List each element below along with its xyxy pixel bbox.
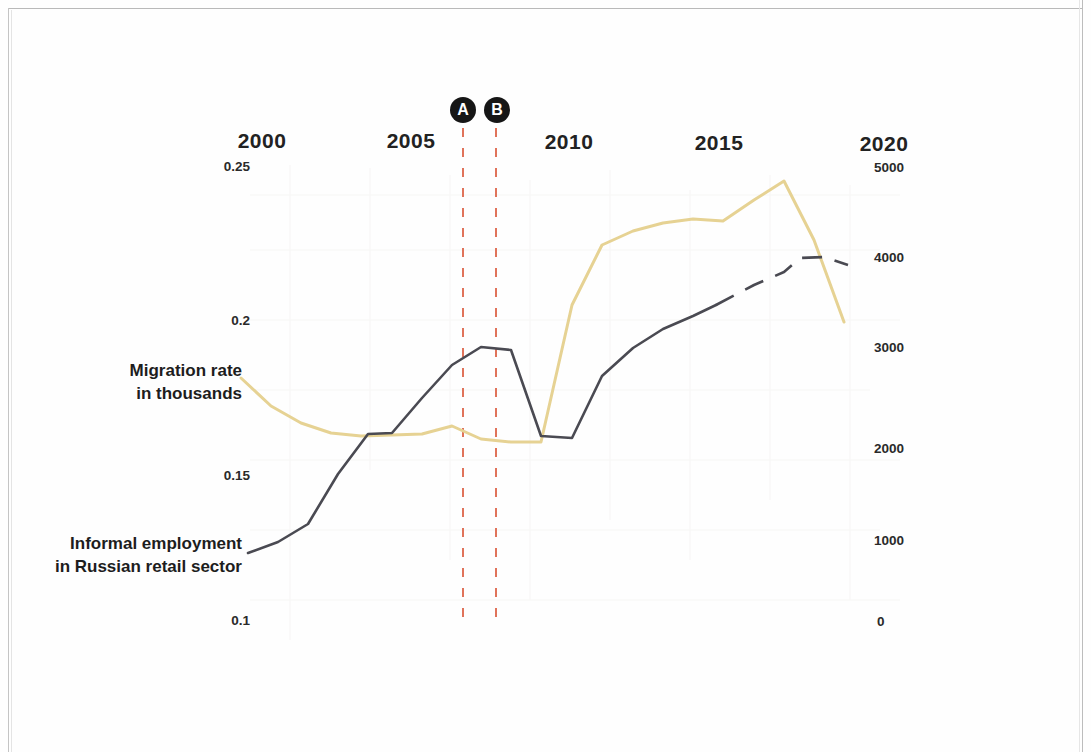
y-left-tick-0.2: 0.2 (231, 313, 250, 328)
series-label-migration-line1: Migration rate (130, 360, 242, 383)
y-right-tick-0: 0 (877, 614, 885, 629)
annotation-marker-a[interactable]: A (450, 97, 476, 123)
page-frame-top (8, 8, 1083, 9)
y-left-tick-0.15: 0.15 (224, 468, 250, 483)
page-frame-left (8, 8, 9, 752)
y-left-tick-0.1: 0.1 (231, 613, 250, 628)
page-frame-right (1082, 0, 1083, 752)
series-informal-employment-dashed (716, 257, 848, 305)
page-frame-right-inner (1079, 0, 1080, 752)
series-migration-rate (241, 181, 844, 442)
y-right-tick-5000: 5000 (874, 160, 904, 175)
x-tick-2020: 2020 (860, 132, 909, 156)
chart-page: 2000 2005 2010 2015 2020 0.25 0.2 0.15 0… (0, 0, 1091, 752)
x-tick-2015: 2015 (695, 131, 744, 155)
series-informal-employment-solid (248, 305, 716, 553)
x-tick-2005: 2005 (387, 129, 436, 153)
y-right-tick-3000: 3000 (874, 340, 904, 355)
y-left-tick-0.25: 0.25 (224, 159, 250, 174)
page-frame-left-inner (11, 10, 12, 752)
x-tick-2000: 2000 (238, 129, 287, 153)
series-label-migration-line2: in thousands (130, 383, 242, 406)
y-right-tick-1000: 1000 (874, 533, 904, 548)
x-tick-2010: 2010 (545, 130, 594, 154)
series-label-migration-rate: Migration rate in thousands (130, 360, 242, 406)
series-label-informal-employment: Informal employment in Russian retail se… (55, 533, 242, 579)
y-right-tick-4000: 4000 (874, 250, 904, 265)
y-right-tick-2000: 2000 (874, 441, 904, 456)
annotation-marker-b[interactable]: B (484, 97, 510, 123)
series-label-informal-line1: Informal employment (55, 533, 242, 556)
series-label-informal-line2: in Russian retail sector (55, 556, 242, 579)
